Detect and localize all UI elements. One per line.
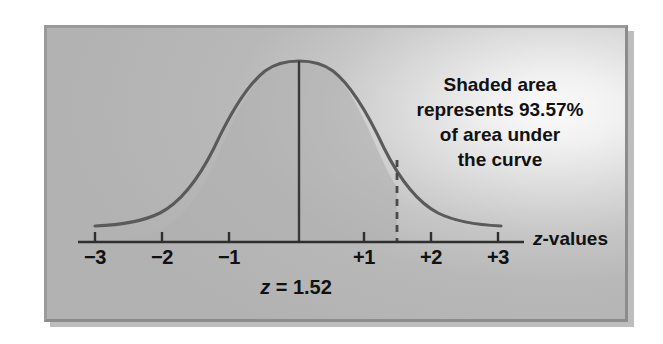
x-tick-label-neg1: −1: [218, 246, 240, 269]
x-tick-label-pos1: +1: [353, 246, 375, 269]
normal-distribution-figure: −3 −2 −1 +1 +2 +3 z-values z = 1.52 Shad…: [0, 0, 663, 344]
x-tick-label-neg3: −3: [84, 246, 106, 269]
z-caption-value: = 1.52: [270, 276, 332, 298]
x-tick-label-pos2: +2: [420, 246, 442, 269]
shaded-area-region: [95, 61, 397, 242]
x-axis-title: z-values: [533, 228, 608, 250]
z-value-caption: z = 1.52: [260, 276, 332, 299]
axis-title-italic-z: z: [533, 228, 543, 249]
axis-title-suffix: -values: [543, 228, 608, 249]
z-caption-italic-z: z: [260, 276, 270, 298]
shaded-area-annotation: Shaded area represents 93.57% of area un…: [385, 72, 615, 172]
x-tick-label-neg2: −2: [151, 246, 173, 269]
x-tick-label-pos3: +3: [487, 246, 509, 269]
